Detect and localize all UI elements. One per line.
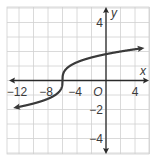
- x-tick-label: −8: [39, 85, 53, 99]
- axes: [9, 7, 149, 154]
- y-tick-label: −2: [89, 103, 103, 117]
- y-axis-label: y: [110, 6, 118, 20]
- x-tick-label: −12: [7, 85, 28, 99]
- y-tick-label: −4: [89, 132, 103, 146]
- x-tick-label: 4: [132, 85, 139, 99]
- y-tick-label: 4: [96, 16, 103, 30]
- function-curve: [16, 48, 141, 107]
- cube-root-graph: −12−8−444−2−4Oxy: [0, 0, 159, 164]
- x-axis-label: x: [139, 64, 147, 78]
- origin-label: O: [93, 85, 102, 99]
- x-tick-label: −4: [68, 85, 82, 99]
